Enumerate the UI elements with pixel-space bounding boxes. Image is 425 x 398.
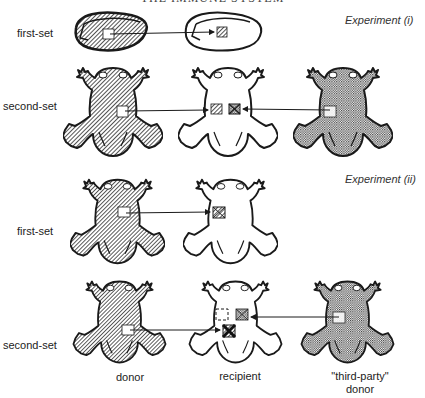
exp1-first-set-donor-kidney bbox=[76, 13, 147, 51]
exp2-first-set-donor-frog bbox=[70, 180, 165, 264]
exp1-second-set-donor-frog bbox=[63, 68, 163, 156]
exp2-second-set-donor-frog bbox=[74, 282, 166, 363]
exp1-second-set-arrow-third-party bbox=[243, 109, 330, 110]
accepted-graft bbox=[211, 104, 222, 114]
exp2-second-set-third-party-frog bbox=[302, 282, 394, 363]
exp1-second-set-third-party-frog bbox=[293, 68, 393, 156]
exp1-second-set-arrow-donor bbox=[125, 110, 208, 111]
rejected-graft bbox=[213, 207, 225, 218]
exp1-first-set-recipient-kidney bbox=[186, 13, 262, 51]
rejected-graft-third-party bbox=[229, 104, 240, 114]
strongly-rejected-graft bbox=[223, 325, 235, 337]
graft-diagram bbox=[0, 0, 425, 398]
exp2-second-set-recipient-frog bbox=[190, 282, 282, 363]
exp2-first-set-recipient-frog bbox=[183, 180, 278, 264]
exp1-second-set-recipient-frog bbox=[178, 68, 278, 156]
rejected-graft-third-party bbox=[236, 309, 248, 320]
